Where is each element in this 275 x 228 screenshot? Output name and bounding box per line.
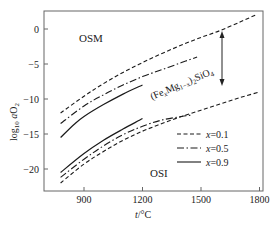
- x-tick-label: 1800: [250, 194, 270, 205]
- x-tick-label: 1500: [191, 194, 211, 205]
- y-tick-label: −10: [23, 94, 39, 105]
- x-tick-label: 1200: [133, 194, 153, 205]
- y-axis-label: log10 aO2: [8, 102, 21, 141]
- legend-label: x=0.5: [205, 143, 229, 154]
- legend: x=0.1x=0.5x=0.9: [177, 129, 229, 168]
- osm-region-label: OSM: [79, 32, 103, 44]
- legend-label: x=0.9: [205, 157, 229, 168]
- osi-region-label: OSI: [150, 167, 168, 179]
- y-tick-label: −5: [28, 59, 39, 70]
- y-tick-label: −15: [23, 129, 39, 140]
- chart: 0−5−10−15−20 900120015001800 OSM OSI (Fe…: [0, 0, 275, 228]
- x-tick-label: 900: [77, 194, 92, 205]
- y-tick-label: −20: [23, 164, 39, 175]
- legend-label: x=0.1: [205, 129, 229, 140]
- double-arrow-icon: [220, 31, 225, 86]
- series-line-upper-x-0.9: [61, 85, 143, 138]
- y-tick-label: 0: [34, 24, 39, 35]
- series-line-lower-x-0.5: [61, 115, 192, 177]
- x-axis-label: t/°C: [135, 209, 152, 220]
- x-axis: 900120015001800: [77, 187, 270, 205]
- series-line-lower-x-0.9: [61, 119, 143, 173]
